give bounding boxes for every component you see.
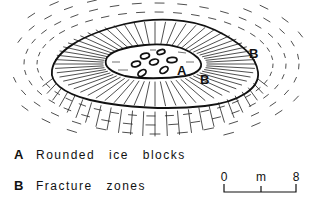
legend-key-a: A [14, 147, 36, 162]
inner-basin-outline [106, 44, 201, 78]
ice-feature-sketch [0, 0, 315, 140]
legend-item-b: B Fracture zones [14, 178, 146, 193]
legend-text-b: Fracture zones [36, 179, 146, 193]
label-inner-fracture-b: B [200, 73, 209, 86]
scale-bar-line [220, 170, 300, 196]
legend-key-b: B [14, 178, 36, 193]
scale-bar: 0 m 8 [220, 170, 300, 196]
label-ice-blocks-a: A [177, 64, 186, 77]
label-outer-fracture-b: B [249, 47, 258, 60]
legend-text-a: Rounded ice blocks [36, 148, 186, 162]
legend-item-a: A Rounded ice blocks [14, 147, 186, 162]
